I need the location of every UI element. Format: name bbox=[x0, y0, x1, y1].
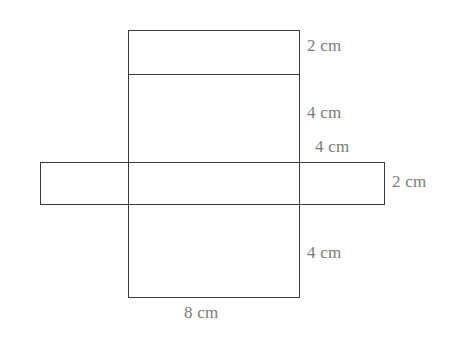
dimension-label-middle-face: 4 cm bbox=[315, 138, 349, 155]
dimension-label-lower-face: 4 cm bbox=[307, 244, 341, 261]
vertical-column-rect bbox=[129, 31, 300, 298]
figure-canvas: 2 cm 4 cm 4 cm 2 cm 4 cm 8 cm bbox=[0, 0, 470, 338]
dimension-label-upper-face: 4 cm bbox=[307, 104, 341, 121]
net-diagram bbox=[0, 0, 470, 338]
dimension-label-base-width: 8 cm bbox=[184, 304, 218, 321]
dimension-label-top-flap: 2 cm bbox=[307, 37, 341, 54]
horizontal-strip-rect bbox=[41, 163, 385, 205]
dimension-label-strip-height: 2 cm bbox=[392, 173, 426, 190]
